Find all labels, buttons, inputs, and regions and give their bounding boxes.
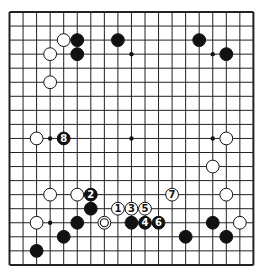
star-point <box>129 52 133 56</box>
black-stone: 6 <box>152 216 165 229</box>
star-point <box>211 136 215 140</box>
move-number: 8 <box>60 133 67 144</box>
black-stone <box>193 34 206 47</box>
move-number: 7 <box>169 189 176 200</box>
white-stone: 3 <box>125 202 138 215</box>
black-stone <box>71 216 84 229</box>
star-point <box>129 136 133 140</box>
white-stone <box>44 188 57 201</box>
white-stone <box>30 216 43 229</box>
move-number: 1 <box>114 203 121 214</box>
black-stone <box>220 48 233 61</box>
white-stone: 1 <box>112 202 125 215</box>
star-point <box>48 136 52 140</box>
go-board: 82713546 <box>0 0 259 275</box>
white-stone: 7 <box>166 188 179 201</box>
black-stone <box>206 216 219 229</box>
star-point <box>48 221 52 225</box>
black-stone: 2 <box>84 188 97 201</box>
black-stone: 8 <box>57 132 70 145</box>
move-number: 5 <box>142 203 149 214</box>
black-stone <box>125 216 138 229</box>
white-stone: 5 <box>139 202 152 215</box>
black-stone <box>220 230 233 243</box>
white-stone <box>44 48 57 61</box>
white-stone <box>98 216 111 229</box>
white-stone <box>220 188 233 201</box>
white-stone <box>206 160 219 173</box>
white-stone <box>220 132 233 145</box>
star-point <box>211 52 215 56</box>
white-stone <box>30 132 43 145</box>
white-stone <box>71 188 84 201</box>
black-stone <box>112 34 125 47</box>
white-stone <box>233 216 246 229</box>
black-stone <box>71 48 84 61</box>
black-stone: 4 <box>139 216 152 229</box>
white-stone <box>44 76 57 89</box>
move-number: 4 <box>142 217 149 228</box>
black-stone <box>71 34 84 47</box>
move-number: 2 <box>87 189 94 200</box>
black-stone <box>84 202 97 215</box>
white-stone <box>57 34 70 47</box>
stones-layer: 82713546 <box>30 34 246 258</box>
move-number: 6 <box>155 217 162 228</box>
black-stone <box>57 230 70 243</box>
move-number: 3 <box>128 203 135 214</box>
black-stone <box>30 244 43 257</box>
black-stone <box>179 230 192 243</box>
